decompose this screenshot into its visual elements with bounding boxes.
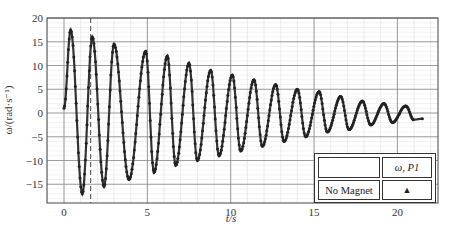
legend-header-empty [318,157,380,178]
legend-marker-triangle-icon: ▲ [382,180,432,200]
legend-row-label: No Magnet [318,180,380,200]
svg-text:−15: −15 [26,178,44,190]
svg-text:20: 20 [392,206,404,218]
y-axis-label: ω/(rad·s⁻¹) [2,85,15,134]
y-axis-ticks: −15−10−505101520 [26,12,44,190]
svg-text:0: 0 [61,206,67,218]
svg-text:15: 15 [32,36,44,48]
svg-text:5: 5 [145,206,151,218]
svg-text:20: 20 [32,12,44,24]
svg-text:15: 15 [309,206,321,218]
svg-text:−5: −5 [31,131,43,143]
legend-header-series: ω, P1 [382,157,432,178]
svg-text:10: 10 [32,60,44,72]
legend: ω, P1 No Magnet ▲ [314,153,436,203]
svg-text:−10: −10 [26,155,44,167]
svg-text:0: 0 [38,107,44,119]
x-axis-label: t/s [226,212,236,224]
svg-text:5: 5 [38,83,44,95]
